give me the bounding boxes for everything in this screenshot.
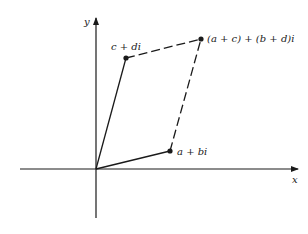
x-axis-label: x — [292, 174, 298, 185]
label-c-di: c + di — [111, 41, 141, 52]
vector-c-di — [96, 58, 126, 169]
point-sum — [198, 36, 203, 41]
label-a-bi: a + bi — [177, 146, 207, 157]
dashed-side-right — [170, 39, 201, 151]
parallelogram-diagram: y x c + di a + bi (a + c) + (b + d)i — [0, 0, 308, 234]
point-a-bi — [167, 148, 172, 153]
label-sum: (a + c) + (b + d)i — [207, 33, 294, 44]
vector-a-bi — [96, 151, 170, 169]
y-axis-label: y — [83, 16, 90, 27]
point-c-di — [123, 55, 128, 60]
